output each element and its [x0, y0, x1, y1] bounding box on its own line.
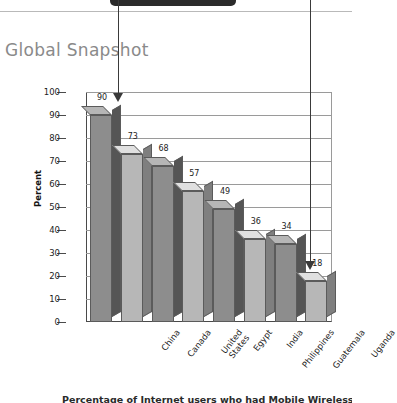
bar: 90 — [90, 115, 112, 322]
y-axis-tick-label: 70 — [20, 156, 60, 166]
bar-front-face — [305, 281, 327, 322]
y-axis-tick-label: 60 — [20, 179, 60, 189]
bar: 57 — [182, 191, 204, 322]
y-axis-tick-label: 20 — [20, 271, 60, 281]
bar: 49 — [213, 209, 235, 322]
bar-side-face — [327, 270, 336, 317]
bar-front-face — [244, 239, 266, 322]
bar-front-face — [90, 115, 112, 322]
annotation-arrow-uganda — [305, 0, 316, 270]
y-axis-tick-label: 80 — [20, 133, 60, 143]
arrow-shaft — [118, 0, 119, 94]
bar: 36 — [244, 239, 266, 322]
bar-side-face — [174, 155, 183, 317]
bar-side-face — [235, 199, 244, 317]
bar-value-label: 49 — [220, 187, 230, 196]
y-axis-tick-label: 40 — [20, 225, 60, 235]
y-axis-tick-label: 0 — [20, 317, 60, 327]
figure-caption: Percentage of Internet users who had Mob… — [62, 394, 352, 403]
bar: 73 — [121, 154, 143, 322]
bar-side-face — [112, 105, 121, 317]
bar-front-face — [213, 209, 235, 322]
y-axis-tick-label: 10 — [20, 294, 60, 304]
arrow-head-icon — [113, 93, 123, 102]
bar-side-face — [143, 144, 152, 317]
y-axis-tick-label: 50 — [20, 202, 60, 212]
bar-value-label: 57 — [189, 169, 199, 178]
bar-front-face — [182, 191, 204, 322]
y-axis-tick-label: 30 — [20, 248, 60, 258]
plot-area: 0102030405060708090100 9073685749363418 — [86, 92, 332, 322]
bar: 68 — [152, 166, 174, 322]
bar-value-label: 68 — [158, 144, 168, 153]
bar-value-label: 34 — [281, 222, 291, 231]
bar-front-face — [121, 154, 143, 322]
arrow-shaft — [310, 0, 311, 262]
annotation-arrow-china — [113, 0, 124, 102]
bar-value-label: 36 — [251, 217, 261, 226]
gridline — [86, 115, 332, 116]
bar-front-face — [152, 166, 174, 322]
bar-value-label: 73 — [128, 132, 138, 141]
bar: 34 — [275, 244, 297, 322]
arrow-head-icon — [305, 261, 315, 270]
bar-front-face — [275, 244, 297, 322]
gridline — [86, 138, 332, 139]
y-axis-tick-label: 90 — [20, 110, 60, 120]
y-axis-tick-label: 100 — [20, 87, 60, 97]
bar: 18 — [305, 281, 327, 322]
bar-value-label: 90 — [97, 93, 107, 102]
